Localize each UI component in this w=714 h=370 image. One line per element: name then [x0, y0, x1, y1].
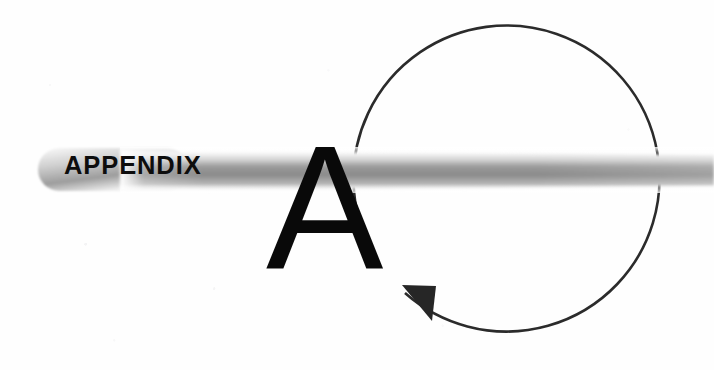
appendix-divider-page: APPENDIX A	[0, 0, 714, 370]
appendix-label: APPENDIX	[64, 153, 202, 179]
banner-top-highlight	[120, 147, 714, 154]
banner-bottom-fade	[120, 184, 714, 193]
appendix-letter: A	[266, 120, 383, 296]
